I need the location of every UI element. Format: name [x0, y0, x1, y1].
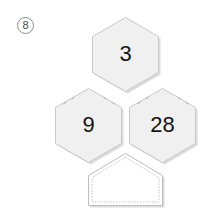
hex-bottom-left-label: 9 — [82, 112, 94, 137]
hex-bottom-right-label: 28 — [150, 112, 174, 137]
answer-pentagon-cell[interactable] — [89, 154, 163, 206]
hexagon-puzzle-figure: 8 9 — [0, 0, 215, 223]
hexagon-diagram: 9 28 3 — [0, 0, 215, 223]
hex-top-label: 3 — [119, 41, 131, 66]
answer-pentagon-face[interactable] — [89, 154, 163, 206]
